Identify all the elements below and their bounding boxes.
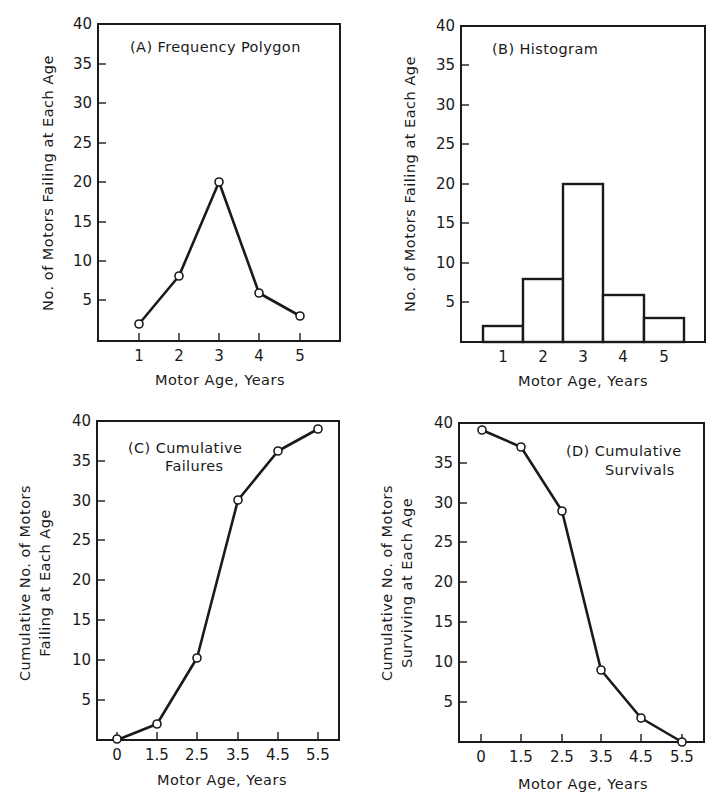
panel-d-point-age-5-5 bbox=[678, 738, 686, 746]
panel-b-ytick-30: 30 bbox=[436, 96, 455, 114]
panel-c-ytick-30: 30 bbox=[72, 492, 91, 510]
panel-b-x-axis: 1 2 3 4 5 bbox=[498, 348, 669, 366]
panel-c-y-label-line1: Cumulative No. of Motors bbox=[17, 485, 33, 681]
panel-b-ytick-35: 35 bbox=[436, 56, 455, 74]
panel-b-ytick-15: 15 bbox=[436, 214, 455, 232]
panel-d-ytick-10: 10 bbox=[434, 653, 453, 671]
panel-d-y-label-line1: Cumulative No. of Motors bbox=[379, 485, 395, 681]
panel-a-point-age-5 bbox=[296, 312, 304, 320]
panel-b-xtick-4: 4 bbox=[618, 348, 628, 366]
panel-d-xtick-5-5: 5.5 bbox=[670, 748, 694, 766]
panel-d-xtick-4-5: 4.5 bbox=[629, 748, 653, 766]
panel-c-point-age-3-5 bbox=[234, 496, 242, 504]
panel-a-ytick-35: 35 bbox=[73, 55, 92, 73]
panel-a-xtick-3: 3 bbox=[214, 347, 224, 365]
panel-a-y-axis: 40 35 30 25 20 15 10 5 bbox=[73, 15, 106, 309]
panel-c-xtick-2-5: 2.5 bbox=[185, 746, 209, 764]
panel-d-cumulative-survivals: (D) Cumulative Survivals 40 35 30 25 20 … bbox=[379, 414, 704, 792]
panel-b-x-label: Motor Age, Years bbox=[518, 373, 648, 389]
panel-c-title-line2: Failures bbox=[165, 458, 223, 474]
panel-c-point-age-5-5 bbox=[314, 425, 322, 433]
panel-c-y-axis: 40 35 30 25 20 15 10 5 bbox=[72, 412, 105, 709]
panel-b-xtick-5: 5 bbox=[659, 348, 669, 366]
panel-d-point-age-1-5 bbox=[517, 443, 525, 451]
panel-c-point-age-4-5 bbox=[274, 447, 282, 455]
panel-b-ytick-20: 20 bbox=[436, 175, 455, 193]
panel-a-point-age-4 bbox=[255, 289, 263, 297]
panel-c-ytick-40: 40 bbox=[72, 412, 91, 430]
panel-b-bars bbox=[483, 184, 684, 342]
panel-a-y-label: No. of Motors Failing at Each Age bbox=[40, 55, 56, 311]
panel-c-xtick-3-5: 3.5 bbox=[226, 746, 250, 764]
panel-a-point-age-3 bbox=[215, 178, 223, 186]
panel-a-ytick-30: 30 bbox=[73, 94, 92, 112]
panel-d-ytick-25: 25 bbox=[434, 533, 453, 551]
panel-a-ytick-40: 40 bbox=[73, 15, 92, 33]
panel-a-x-axis: 1 2 3 4 5 bbox=[134, 333, 305, 365]
panel-c-title-line1: (C) Cumulative bbox=[128, 440, 242, 456]
panel-d-ytick-40: 40 bbox=[434, 414, 453, 432]
panel-d-title-line2: Survivals bbox=[605, 462, 675, 478]
panel-c-ytick-5: 5 bbox=[81, 691, 91, 709]
panel-b-xtick-2: 2 bbox=[538, 348, 548, 366]
panel-b-bar-age-4 bbox=[603, 295, 644, 342]
panel-c-ytick-10: 10 bbox=[72, 651, 91, 669]
panel-a-ytick-5: 5 bbox=[82, 291, 92, 309]
panel-c-y-label-line2: Failing at Each Age bbox=[37, 509, 53, 657]
panel-c-xtick-0: 0 bbox=[112, 746, 122, 764]
panel-d-y-label-line2: Surviving at Each Age bbox=[399, 498, 415, 668]
panel-c-xtick-4-5: 4.5 bbox=[266, 746, 290, 764]
panel-c-xtick-5-5: 5.5 bbox=[306, 746, 330, 764]
panel-b-title: (B) Histogram bbox=[492, 41, 598, 57]
panel-c-point-age-0 bbox=[113, 735, 121, 743]
panel-b-xtick-3: 3 bbox=[578, 348, 588, 366]
panel-a-xtick-2: 2 bbox=[174, 347, 184, 365]
panel-c-point-age-2-5 bbox=[193, 654, 201, 662]
panel-a-title: (A) Frequency Polygon bbox=[130, 39, 301, 55]
panel-d-point-age-4-5 bbox=[637, 714, 645, 722]
panel-d-ytick-5: 5 bbox=[443, 693, 453, 711]
panel-d-ytick-15: 15 bbox=[434, 613, 453, 631]
panel-d-x-label: Motor Age, Years bbox=[518, 776, 648, 792]
figure-canvas: (A) Frequency Polygon 40 35 30 25 20 15 … bbox=[0, 0, 717, 812]
panel-b-ytick-5: 5 bbox=[445, 293, 455, 311]
panel-b-ytick-40: 40 bbox=[436, 17, 455, 35]
panel-d-ytick-35: 35 bbox=[434, 454, 453, 472]
panel-b-bar-age-2 bbox=[523, 279, 563, 342]
panel-a-ytick-15: 15 bbox=[73, 213, 92, 231]
panel-d-y-axis: 40 35 30 25 20 15 10 5 bbox=[434, 414, 467, 711]
panel-d-xtick-1-5: 1.5 bbox=[509, 748, 533, 766]
panel-d-ytick-20: 20 bbox=[434, 573, 453, 591]
panel-d-title-line1: (D) Cumulative bbox=[566, 443, 681, 459]
panel-a-ytick-10: 10 bbox=[73, 252, 92, 270]
panel-a-xtick-4: 4 bbox=[254, 347, 264, 365]
panel-b-ytick-25: 25 bbox=[436, 135, 455, 153]
panel-a-ytick-20: 20 bbox=[73, 173, 92, 191]
panel-a-polygon-line bbox=[139, 182, 300, 324]
panel-a-xtick-1: 1 bbox=[134, 347, 144, 365]
panel-b-y-label: No. of Motors Failing at Each Age bbox=[402, 56, 418, 312]
panel-c-point-age-1-5 bbox=[153, 720, 161, 728]
panel-d-ytick-30: 30 bbox=[434, 494, 453, 512]
panel-d-point-age-3-5 bbox=[597, 666, 605, 674]
panel-c-ytick-20: 20 bbox=[72, 571, 91, 589]
panel-d-point-age-0 bbox=[478, 426, 486, 434]
panel-c-x-label: Motor Age, Years bbox=[157, 772, 287, 788]
panel-b-bar-age-5 bbox=[644, 318, 684, 342]
panel-d-xtick-3-5: 3.5 bbox=[589, 748, 613, 766]
panel-a-point-age-2 bbox=[175, 272, 183, 280]
panel-a-x-label: Motor Age, Years bbox=[155, 372, 285, 388]
panel-c-ytick-35: 35 bbox=[72, 452, 91, 470]
panel-a-xtick-5: 5 bbox=[295, 347, 305, 365]
panel-c-cumulative-failures: (C) Cumulative Failures 40 35 30 25 20 1… bbox=[17, 412, 339, 788]
panel-b-ytick-10: 10 bbox=[436, 254, 455, 272]
panel-b-bar-age-3 bbox=[563, 184, 603, 342]
panel-d-xtick-2-5: 2.5 bbox=[550, 748, 574, 766]
panel-b-histogram: (B) Histogram 40 35 30 25 20 15 10 5 No.… bbox=[402, 17, 705, 389]
panel-a-point-age-1 bbox=[135, 320, 143, 328]
panel-c-x-axis: 0 1.5 2.5 3.5 4.5 5.5 bbox=[112, 732, 330, 764]
panel-b-xtick-1: 1 bbox=[498, 348, 508, 366]
panel-d-x-axis: 0 1.5 2.5 3.5 4.5 5.5 bbox=[476, 734, 694, 766]
panel-b-y-axis: 40 35 30 25 20 15 10 5 bbox=[436, 17, 469, 311]
panel-d-xtick-0: 0 bbox=[476, 748, 486, 766]
